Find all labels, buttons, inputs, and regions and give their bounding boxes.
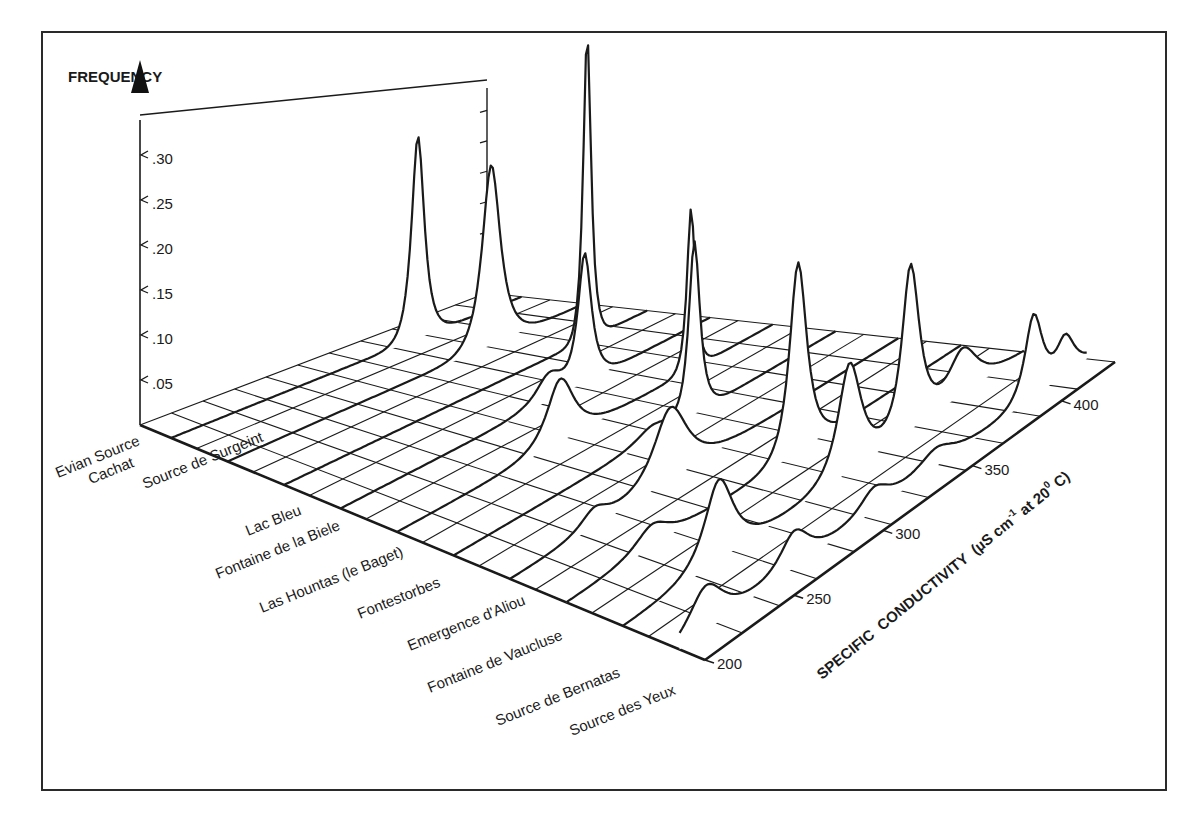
- back-axis-tick: [480, 110, 487, 112]
- frequency-axis: FREQUENCY: [68, 60, 162, 93]
- frequency-tick: [141, 151, 148, 158]
- spring-label: Emergence d'Aliou: [405, 591, 528, 654]
- distribution-curve-5: [454, 241, 836, 555]
- curve-fill: [454, 241, 836, 555]
- frequency-tick: [141, 196, 148, 203]
- conductivity-title-end: C): [1047, 467, 1073, 493]
- frequency-ticks: .05.10.15.20.25.30: [141, 150, 173, 392]
- frequency-tick: [141, 331, 148, 338]
- conductivity-tick-label: 200: [717, 655, 742, 672]
- spring-label: Evian SourceCachat: [53, 432, 149, 498]
- frequency-tick-label: .15: [152, 285, 173, 302]
- spring-label: Source de Surgeint: [140, 428, 266, 492]
- conductivity-tick: [794, 595, 803, 598]
- conductivity-tick: [1062, 401, 1071, 404]
- back-axis-tick: [480, 141, 487, 143]
- spring-label: Fontestorbes: [355, 573, 443, 622]
- conductivity-tick: [883, 530, 892, 533]
- back-axis-tick: [480, 171, 487, 173]
- conductivity-tick: [972, 466, 981, 469]
- spring-axis-edge: [140, 425, 705, 660]
- waterfall-chart: FREQUENCY .05.10.15.20.25.30 20025030035…: [0, 0, 1193, 816]
- frequency-tick-label: .20: [152, 240, 173, 257]
- frequency-tick-label: .25: [152, 195, 173, 212]
- conductivity-ticks: 200250300350400: [705, 396, 1099, 672]
- frequency-tick-label: .30: [152, 150, 173, 167]
- back-wall: [140, 80, 487, 425]
- grid-line: [536, 341, 927, 589]
- frequency-tick: [141, 376, 148, 383]
- frequency-tick: [141, 286, 148, 293]
- curve-fill: [680, 314, 1087, 649]
- frequency-axis-title: FREQUENCY: [68, 68, 162, 85]
- back-wall-top-edge: [140, 80, 487, 115]
- conductivity-tick-label: 350: [984, 461, 1009, 478]
- frequency-tick-label: .10: [152, 330, 173, 347]
- conductivity-axis-title: SPECIFIC CONDUCTIVITY (µS cm-1 at 200 C): [812, 466, 1073, 682]
- conductivity-tick-label: 250: [806, 590, 831, 607]
- conductivity-tick: [705, 660, 714, 663]
- svg-text:SPECIFIC CONDUCTIVITY (µS cm: SPECIFIC CONDUCTIVITY (µS cm-1 at 200 C): [812, 466, 1073, 682]
- frequency-tick: [141, 241, 148, 248]
- conductivity-tick-label: 300: [895, 525, 920, 542]
- conductivity-tick-label: 400: [1074, 396, 1099, 413]
- spring-labels: Evian SourceCachatSource de SurgeintLac …: [53, 428, 678, 739]
- frequency-tick-label: .05: [152, 375, 173, 392]
